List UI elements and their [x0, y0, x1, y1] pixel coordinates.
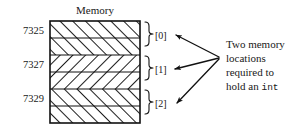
index-braces	[145, 22, 153, 114]
index-label-0: [0]	[155, 30, 167, 41]
memory-layout-diagram: Memory 7325 7327 7329	[0, 0, 291, 132]
brace-index-0	[145, 22, 153, 46]
note-line-1: Two memory	[226, 38, 285, 50]
memory-title: Memory	[76, 4, 114, 16]
memory-cell-row-1	[50, 21, 140, 38]
note-line-4-code: int	[261, 82, 278, 93]
arrow-to-index-2	[177, 59, 219, 103]
note-line-2: locations	[226, 52, 266, 64]
note-line-3: required to	[226, 66, 274, 78]
memory-cell-row-5	[50, 89, 140, 106]
address-label-7325: 7325	[23, 25, 44, 36]
brace-index-1	[145, 56, 153, 80]
arrow-to-index-0	[176, 35, 219, 57]
index-label-2: [2]	[155, 98, 167, 109]
diagram-canvas: Memory 7325 7327 7329	[0, 0, 291, 132]
address-label-7329: 7329	[23, 93, 44, 104]
memory-cell-row-3	[50, 55, 140, 72]
address-label-7327: 7327	[23, 59, 44, 70]
memory-cell-row-2	[50, 38, 140, 55]
brace-index-2	[145, 90, 153, 114]
note-line-4-text: hold an	[226, 80, 261, 92]
index-label-1: [1]	[155, 64, 167, 75]
callout-note: Two memory locations required to hold an…	[226, 38, 285, 93]
memory-cell-row-6	[50, 106, 140, 123]
callout-arrows	[175, 35, 219, 103]
note-line-4: hold an int	[226, 80, 279, 93]
memory-cell-row-4	[50, 72, 140, 89]
arrow-to-index-1	[175, 58, 219, 69]
